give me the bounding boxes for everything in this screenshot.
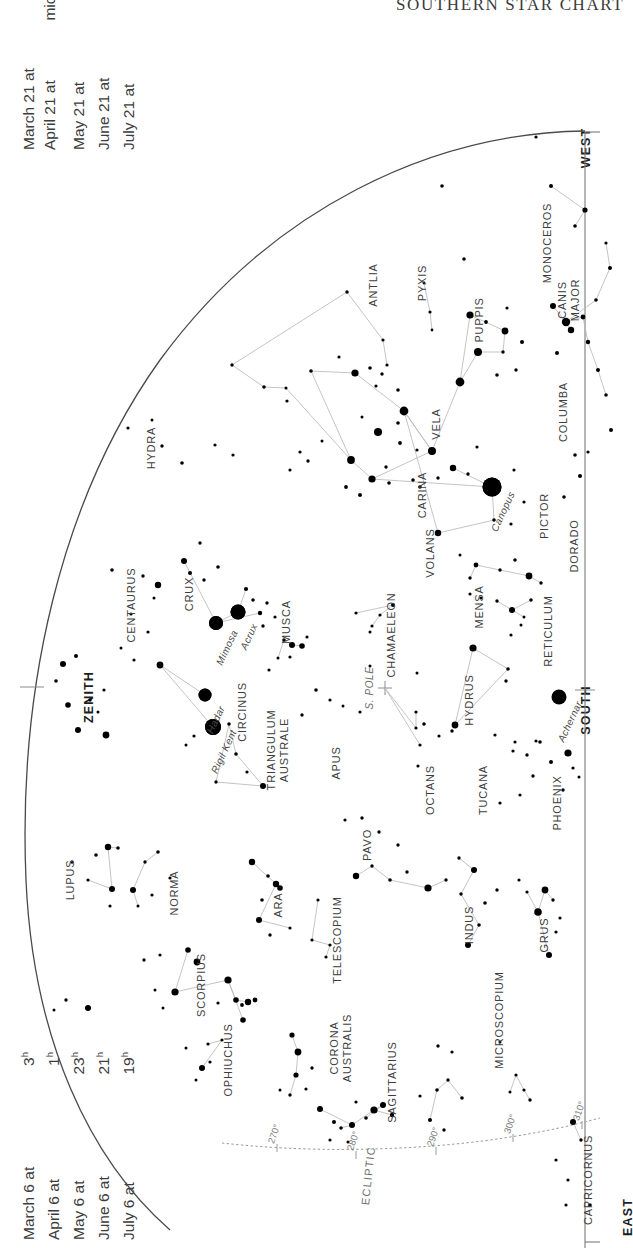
star <box>534 135 537 138</box>
star <box>354 611 357 614</box>
star <box>293 1072 298 1077</box>
constellation-label: APUS <box>330 746 342 779</box>
constellation-label: SCORPIUS <box>195 953 207 1017</box>
named-star <box>483 478 502 497</box>
star <box>347 456 355 464</box>
star <box>156 850 160 854</box>
star <box>562 495 566 499</box>
constellation-label: PICTOR <box>538 493 550 539</box>
constellation-label: VOLANS <box>424 528 436 577</box>
constellation-label: TELESCOPIUM <box>331 896 343 984</box>
star <box>501 350 504 353</box>
star <box>360 816 363 819</box>
constellation-label: PUPPIS <box>473 297 485 342</box>
star <box>495 888 498 891</box>
star <box>594 298 598 302</box>
constellation-label: PAVO <box>361 829 373 861</box>
star <box>514 368 517 371</box>
star <box>132 658 135 661</box>
star <box>568 327 574 333</box>
star <box>240 1017 246 1023</box>
star <box>442 1128 445 1131</box>
star <box>466 472 469 475</box>
star <box>534 739 537 742</box>
star <box>506 667 510 671</box>
star <box>206 1042 209 1045</box>
star <box>558 916 561 919</box>
star <box>244 587 248 591</box>
star <box>525 890 528 893</box>
star <box>498 568 501 571</box>
star <box>245 770 248 773</box>
star <box>97 711 100 714</box>
star <box>446 1078 449 1081</box>
star <box>452 722 459 729</box>
constellation-label: RETICULUM <box>542 595 554 666</box>
star <box>109 886 115 892</box>
star <box>349 1122 355 1128</box>
constellation-label: COLUMBA <box>557 382 569 442</box>
star <box>531 774 534 777</box>
star <box>468 576 471 579</box>
star <box>502 328 509 335</box>
star <box>596 368 600 372</box>
star <box>86 878 89 881</box>
star <box>324 955 327 958</box>
star <box>528 1098 531 1101</box>
constellation-label: VELA <box>430 408 442 439</box>
star <box>474 348 482 356</box>
star <box>304 1087 307 1090</box>
star <box>385 363 388 366</box>
star <box>213 443 216 446</box>
star <box>130 887 136 893</box>
star <box>469 644 476 651</box>
star <box>509 1091 512 1094</box>
star <box>411 478 415 482</box>
ecliptic-degree-label: 290° <box>424 1126 441 1148</box>
star <box>424 884 431 891</box>
star <box>586 340 590 344</box>
star <box>316 898 319 901</box>
star <box>141 574 144 577</box>
star <box>436 1044 439 1047</box>
star <box>549 760 553 764</box>
star <box>456 378 465 387</box>
constellation-label: TRIANGULUM <box>265 710 277 791</box>
star <box>554 1158 557 1161</box>
star <box>328 1138 331 1141</box>
constellation-label: PYXIS <box>416 265 428 301</box>
star <box>436 476 439 479</box>
star <box>396 388 400 392</box>
star <box>526 573 533 580</box>
star <box>581 315 586 320</box>
star <box>398 441 402 445</box>
constellation-label: OPHIUCHUS <box>222 1023 234 1096</box>
constellation-label: LUPUS <box>64 860 76 901</box>
star <box>431 329 434 332</box>
star <box>233 997 239 1003</box>
constellation-label: MICROSCOPIUM <box>493 971 505 1069</box>
star <box>555 351 559 355</box>
star <box>332 1120 336 1124</box>
constellation-label: OCTANS <box>424 765 436 815</box>
star <box>566 1178 569 1181</box>
star <box>309 369 313 373</box>
named-star <box>231 605 246 620</box>
star <box>471 867 477 873</box>
star <box>253 998 258 1003</box>
star <box>285 387 288 390</box>
star <box>368 366 372 370</box>
star <box>509 633 512 636</box>
star <box>198 541 201 544</box>
star <box>459 892 462 895</box>
constellation-lines <box>88 186 610 1140</box>
star <box>551 898 554 901</box>
star <box>396 421 400 425</box>
star <box>158 953 161 956</box>
star <box>261 624 264 627</box>
star <box>477 923 481 927</box>
star <box>299 643 305 649</box>
constellation-label-layer: MONOCEROSCANISMAJORCOLUMBAPUPPISPYXISANT… <box>64 203 594 1225</box>
star <box>74 654 78 658</box>
star <box>578 474 582 478</box>
